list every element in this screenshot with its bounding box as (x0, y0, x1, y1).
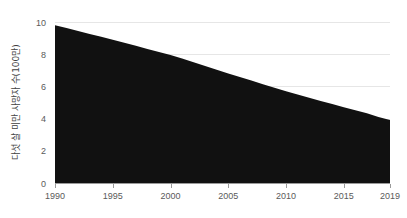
area-series-path (55, 25, 390, 183)
x-axis-tick-label: 1990 (45, 191, 65, 201)
area-chart: 0246810 1990199520002005201020152019 다섯 … (0, 0, 407, 218)
x-axis-tick-labels: 1990199520002005201020152019 (45, 191, 400, 201)
y-axis-tick-label: 10 (36, 18, 46, 28)
x-axis-tick-label: 2010 (276, 191, 296, 201)
y-axis-tick-label: 0 (41, 179, 46, 189)
y-axis-tick-label: 6 (41, 82, 46, 92)
y-axis-tick-label: 8 (41, 50, 46, 60)
y-axis-tick-labels: 0246810 (36, 18, 46, 189)
x-axis-tick-label: 2005 (218, 191, 238, 201)
x-axis-tick-label: 2000 (161, 191, 181, 201)
x-axis-tick-label: 2019 (380, 191, 400, 201)
x-axis-tick-label: 1995 (103, 191, 123, 201)
x-axis-tick-marks (56, 184, 391, 188)
chart-container: 0246810 1990199520002005201020152019 다섯 … (0, 0, 407, 218)
y-axis-tick-label: 4 (41, 114, 46, 124)
y-axis-tick-label: 2 (41, 146, 46, 156)
y-axis-title: 다섯 살 미만 사망자 수(100만) (11, 44, 21, 160)
x-axis-tick-label: 2015 (334, 191, 354, 201)
